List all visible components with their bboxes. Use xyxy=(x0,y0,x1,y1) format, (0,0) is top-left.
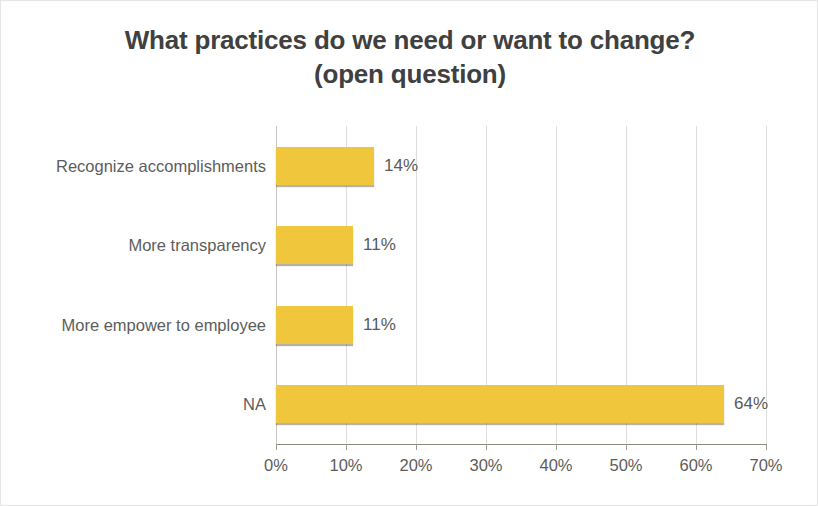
x-axis-tick-label: 30% xyxy=(469,456,502,475)
x-axis-tick-label: 60% xyxy=(679,456,712,475)
x-axis-tick-mark xyxy=(626,444,627,450)
chart-title: What practices do we need or want to cha… xyxy=(1,23,818,91)
y-axis-category-label: NA xyxy=(6,395,266,414)
chart-title-line-2: (open question) xyxy=(1,57,818,91)
x-axis-tick-mark xyxy=(346,444,347,450)
bar-row: 64% xyxy=(276,385,766,423)
x-axis-tick-label: 0% xyxy=(264,456,288,475)
bar-value-label: 14% xyxy=(384,156,418,176)
x-axis-tick-mark xyxy=(416,444,417,450)
x-axis-tick-label: 40% xyxy=(539,456,572,475)
x-axis-tick-label: 20% xyxy=(399,456,432,475)
plot-area: 14%11%11%64% xyxy=(276,126,766,444)
y-axis-category-label: More empower to employee xyxy=(6,315,266,334)
bar[interactable] xyxy=(276,306,353,344)
y-axis-labels: Recognize accomplishmentsMore transparen… xyxy=(1,126,266,444)
x-axis-line xyxy=(276,444,767,445)
chart-container: What practices do we need or want to cha… xyxy=(0,0,818,506)
bar[interactable] xyxy=(276,385,724,423)
y-axis-category-label: More transparency xyxy=(6,236,266,255)
bar-row: 11% xyxy=(276,306,766,344)
x-axis-tick-mark xyxy=(556,444,557,450)
x-axis-tick-label: 50% xyxy=(609,456,642,475)
x-axis-tick-mark xyxy=(276,444,277,450)
bar-value-label: 11% xyxy=(363,235,396,255)
x-axis-tick-label: 70% xyxy=(749,456,782,475)
bar-value-label: 64% xyxy=(734,394,768,414)
y-axis-category-label: Recognize accomplishments xyxy=(6,156,266,175)
bar[interactable] xyxy=(276,147,374,185)
x-axis-tick-labels: 0%10%20%30%40%50%60%70% xyxy=(276,456,766,482)
x-axis-tick-mark xyxy=(486,444,487,450)
bar-value-label: 11% xyxy=(363,315,396,335)
x-axis-tick-label: 10% xyxy=(329,456,362,475)
x-axis-tick-mark xyxy=(766,444,767,450)
bar-row: 11% xyxy=(276,226,766,264)
bar[interactable] xyxy=(276,226,353,264)
bar-row: 14% xyxy=(276,147,766,185)
chart-title-line-1: What practices do we need or want to cha… xyxy=(125,25,696,55)
x-axis-tick-mark xyxy=(696,444,697,450)
